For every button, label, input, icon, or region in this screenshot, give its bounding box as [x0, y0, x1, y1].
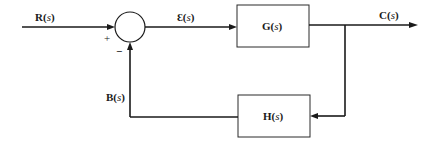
- error-arrowhead: [229, 24, 237, 30]
- feedback-input-arrowhead: [310, 113, 318, 119]
- minus-sign: −: [116, 45, 122, 57]
- output-label: C(s): [379, 9, 399, 22]
- block-diagram: R(s) + − Ɛ(s) G(s) C(s) H(s) B(s): [0, 0, 432, 143]
- input-label: R(s): [35, 11, 55, 24]
- forward-block-label: G(s): [262, 20, 283, 33]
- input-arrowhead: [107, 24, 115, 30]
- summing-junction: [115, 12, 145, 42]
- feedback-signal-label: B(s): [106, 91, 125, 104]
- feedback-arrowhead: [127, 42, 133, 50]
- output-arrowhead: [409, 22, 418, 28]
- plus-sign: +: [104, 32, 110, 44]
- feedback-block-label: H(s): [263, 110, 284, 123]
- error-label: Ɛ(s): [177, 11, 195, 24]
